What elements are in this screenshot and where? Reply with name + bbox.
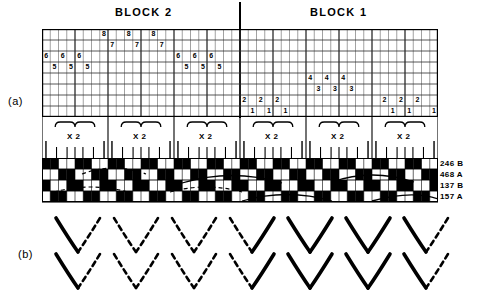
peg-plan-cell-number: 3	[347, 85, 355, 93]
peg-plan-cell-number: 1	[281, 107, 289, 115]
peg-plan-cell-number: 8	[100, 30, 108, 38]
chevron-left-stroke	[288, 218, 310, 252]
peg-plan-cell-number: 6	[59, 52, 67, 60]
chevron-left-stroke	[404, 254, 426, 288]
chevron-left-stroke	[346, 254, 368, 288]
peg-plan-cell-number: 7	[133, 41, 141, 49]
peg-plan-cell-number: 6	[191, 52, 199, 60]
chevron-right-stroke	[368, 254, 390, 288]
peg-plan-cell-number: 1	[248, 107, 256, 115]
chevron-right-stroke	[310, 218, 332, 252]
peg-plan-cell-number: 2	[380, 96, 388, 104]
block-1-title: BLOCK 1	[310, 6, 367, 18]
peg-plan-cell-number: 5	[83, 63, 91, 71]
chevron-diagram-row	[0, 212, 486, 301]
weave-row-label: 468 A	[440, 170, 484, 179]
part-a-label: (a)	[8, 95, 23, 107]
peg-plan-cell-number: 4	[339, 74, 347, 82]
repeat-bracket-lines	[42, 117, 438, 159]
chevron-left-stroke	[56, 218, 78, 252]
peg-plan-cell-number: 4	[323, 74, 331, 82]
peg-plan-cell-number: 6	[42, 52, 50, 60]
chevron-right-stroke	[136, 218, 158, 252]
peg-plan-cell-number: 2	[397, 96, 405, 104]
repeat-x2-label: X 2	[67, 132, 81, 141]
peg-plan-cell-number: 5	[50, 63, 58, 71]
chevron-right-stroke	[78, 218, 100, 252]
peg-plan-cell-number: 4	[306, 74, 314, 82]
weave-pattern-grid	[42, 158, 438, 204]
chevron-left-stroke	[114, 254, 136, 288]
peg-plan-cell-number: 5	[215, 63, 223, 71]
chevron-left-stroke	[288, 254, 310, 288]
peg-plan-cell-number: 8	[149, 30, 157, 38]
peg-plan-cell-number: 2	[240, 96, 248, 104]
repeat-x2-label: X 2	[397, 132, 411, 141]
chevron-left-stroke	[230, 254, 252, 288]
peg-plan-cell-number: 1	[265, 107, 273, 115]
chevron-right-stroke	[252, 254, 274, 288]
chevron-left-stroke	[114, 218, 136, 252]
peg-plan-grid: 888777666666555555444333222222111111	[42, 29, 438, 117]
chevron-left-stroke	[230, 218, 252, 252]
repeat-x2-label: X 2	[133, 132, 147, 141]
chevron-right-stroke	[194, 218, 216, 252]
block-2-title: BLOCK 2	[115, 6, 172, 18]
weave-row-label: 246 B	[440, 159, 484, 168]
chevron-right-stroke	[426, 218, 448, 252]
peg-plan-cell-number: 2	[413, 96, 421, 104]
peg-plan-cell-number: 2	[273, 96, 281, 104]
chevron-left-stroke	[172, 254, 194, 288]
chevron-right-stroke	[426, 254, 448, 288]
peg-plan-cell-number: 7	[108, 41, 116, 49]
repeat-x2-label: X 2	[265, 132, 279, 141]
figure-root: BLOCK 2 BLOCK 1 (a) (b) 8887776666665555…	[0, 0, 486, 301]
chevron-left-stroke	[56, 254, 78, 288]
chevron-right-stroke	[194, 254, 216, 288]
weave-pattern-cells	[42, 158, 438, 204]
repeat-x2-label: X 2	[331, 132, 345, 141]
repeat-bracket-band: X 2X 2X 2X 2X 2X 2	[42, 117, 438, 159]
peg-plan-cell-number: 1	[405, 107, 413, 115]
chevron-left-stroke	[346, 218, 368, 252]
peg-plan-cell-number: 2	[257, 96, 265, 104]
weave-row-label: 157 A	[440, 192, 484, 201]
weave-row-label: 137 B	[440, 181, 484, 190]
peg-plan-cell-number: 6	[207, 52, 215, 60]
chevron-right-stroke	[252, 218, 274, 252]
peg-plan-cell-number: 7	[158, 41, 166, 49]
chevron-strokes	[0, 212, 486, 301]
chevron-right-stroke	[310, 254, 332, 288]
repeat-x2-label: X 2	[199, 132, 213, 141]
chevron-right-stroke	[368, 218, 390, 252]
peg-plan-cell-number: 6	[174, 52, 182, 60]
peg-plan-cell-number: 3	[331, 85, 339, 93]
peg-plan-cell-number: 3	[314, 85, 322, 93]
peg-plan-cell-number: 5	[199, 63, 207, 71]
peg-plan-cell-number: 8	[125, 30, 133, 38]
chevron-left-stroke	[172, 218, 194, 252]
peg-plan-cell-number: 5	[182, 63, 190, 71]
peg-plan-cell-number: 1	[430, 107, 438, 115]
peg-plan-cell-number: 5	[67, 63, 75, 71]
chevron-right-stroke	[78, 254, 100, 288]
chevron-left-stroke	[404, 218, 426, 252]
peg-plan-cell-number: 1	[389, 107, 397, 115]
chevron-right-stroke	[136, 254, 158, 288]
peg-plan-cell-number: 6	[75, 52, 83, 60]
